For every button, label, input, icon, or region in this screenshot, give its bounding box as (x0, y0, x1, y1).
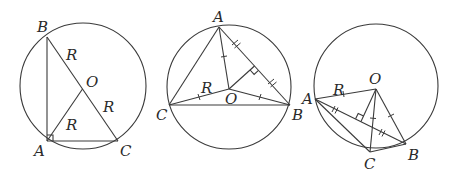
segment-OA (315, 89, 376, 99)
label-C: C (120, 142, 132, 160)
figure-1-right-triangle: B R O R R A C (20, 18, 146, 160)
perpendicular-O-to-AB (229, 66, 255, 89)
label-R-OA: R (332, 81, 344, 99)
segment-OC (370, 89, 376, 152)
circumcircle-1 (20, 23, 146, 149)
label-O: O (369, 70, 381, 88)
label-A: A (32, 142, 45, 160)
label-R-OC: R (102, 98, 114, 116)
segment-AB (315, 99, 406, 144)
label-O: O (86, 73, 98, 91)
figure-3-obtuse-triangle: R O A C B (300, 24, 438, 173)
label-R-OB: R (65, 46, 77, 64)
figure-2-acute-triangle: A R O C B (156, 8, 303, 149)
label-A: A (300, 90, 313, 108)
segment-AC (315, 99, 370, 152)
label-C: C (156, 106, 168, 124)
tick-OC (370, 118, 376, 119)
diagram-canvas: B R O R R A C A R O C B (0, 0, 456, 176)
label-C: C (364, 155, 376, 173)
label-B: B (291, 106, 303, 124)
label-R-OA: R (65, 116, 77, 134)
right-angle-marker-AB (250, 70, 258, 74)
label-R-OC: R (200, 79, 212, 97)
label-B: B (407, 146, 419, 164)
segment-OB (376, 89, 406, 144)
tick-OA (221, 56, 227, 57)
label-A: A (211, 8, 224, 26)
label-B: B (36, 18, 48, 36)
label-O: O (225, 90, 237, 108)
